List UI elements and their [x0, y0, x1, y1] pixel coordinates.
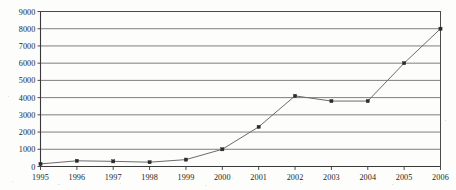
data-point-marker — [112, 160, 115, 163]
y-tick-label: 6000 — [19, 59, 36, 68]
y-tick-label: 1000 — [19, 145, 36, 154]
scan-speck — [392, 184, 393, 185]
data-point-marker — [75, 159, 78, 162]
y-tick-label: 5000 — [19, 76, 36, 85]
scan-speck — [12, 181, 13, 182]
y-tick-label: 9000 — [19, 8, 36, 17]
scan-speck — [205, 185, 206, 186]
scan-speck — [120, 183, 121, 184]
chart-canvas: 0100020003000400050006000700080009000 19… — [0, 0, 456, 190]
scan-speck — [8, 96, 9, 97]
y-tick-label: 4000 — [19, 94, 36, 103]
data-point-marker — [403, 62, 406, 65]
data-point-marker — [439, 27, 442, 30]
y-tick-label: 2000 — [19, 128, 36, 137]
scan-speck — [445, 120, 446, 121]
y-tick-label: 7000 — [19, 42, 36, 51]
x-tick-label: 2004 — [359, 173, 376, 182]
y-tick-label: 8000 — [19, 25, 36, 34]
scan-speck — [58, 184, 60, 185]
x-tick-label: 2006 — [432, 173, 449, 182]
x-tick-label: 2002 — [287, 173, 304, 182]
data-point-marker — [293, 94, 296, 97]
data-point-marker — [366, 99, 369, 102]
y-tick-label: 0 — [31, 163, 35, 172]
x-tick-label: 1995 — [32, 173, 49, 182]
scan-speck — [300, 182, 301, 183]
y-tick-label: 3000 — [19, 111, 36, 120]
data-point-marker — [39, 162, 42, 165]
scan-speck — [232, 178, 233, 179]
data-point-marker — [330, 99, 333, 102]
data-point-marker — [221, 148, 224, 151]
data-point-marker — [257, 125, 260, 128]
x-tick-label: 1999 — [178, 173, 195, 182]
x-tick-label: 1996 — [68, 173, 85, 182]
line-chart: 0100020003000400050006000700080009000 19… — [0, 0, 456, 190]
x-tick-label: 1997 — [105, 173, 122, 182]
x-tick-label: 2005 — [396, 173, 413, 182]
data-point-marker — [148, 161, 151, 164]
x-tick-label: 2003 — [323, 173, 340, 182]
x-tick-label: 1998 — [141, 173, 158, 182]
x-tick-label: 2001 — [250, 173, 267, 182]
x-tick-label: 2000 — [214, 173, 231, 182]
data-point-marker — [184, 158, 187, 161]
